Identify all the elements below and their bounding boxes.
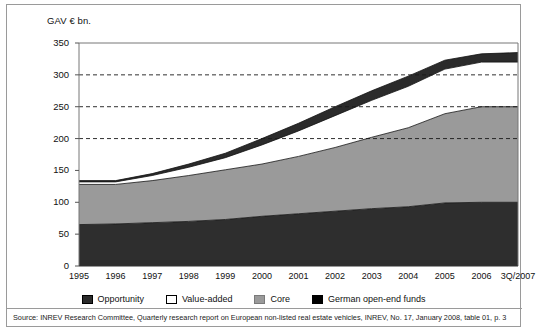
legend-label-opportunity: Opportunity xyxy=(98,294,145,304)
legend-label-german-open-end-funds: German open-end funds xyxy=(328,294,426,304)
legend-label-value-added: Value-added xyxy=(182,294,232,304)
legend-swatch-value-added xyxy=(166,295,177,304)
figure-container: GAV € bn. 050100150200250300350199519961… xyxy=(6,4,521,327)
legend-item-opportunity[interactable]: Opportunity xyxy=(82,294,145,304)
chart-legend: Opportunity Value-added Core German open… xyxy=(7,291,522,307)
y-axis-tick-label: 150 xyxy=(37,164,69,175)
source-note: Source: INREV Research Committee, Quarte… xyxy=(13,313,518,322)
y-axis-tick-label: 100 xyxy=(37,196,69,207)
y-axis-tick-label: 250 xyxy=(37,101,69,112)
legend-label-core: Core xyxy=(270,294,290,304)
y-axis-tick-label: 350 xyxy=(37,37,69,48)
source-divider xyxy=(7,308,522,309)
y-axis-tick-label: 50 xyxy=(37,228,69,239)
stacked-area-chart xyxy=(7,5,522,295)
x-axis-tick-label: 3Q/2007 xyxy=(494,271,540,281)
legend-item-core[interactable]: Core xyxy=(254,294,290,304)
legend-swatch-german-open-end-funds xyxy=(312,295,323,304)
legend-item-german-open-end-funds[interactable]: German open-end funds xyxy=(312,294,426,304)
legend-swatch-opportunity xyxy=(82,295,93,304)
y-axis-tick-label: 300 xyxy=(37,69,69,80)
plot-area: 0501001502002503003501995199619971998199… xyxy=(7,5,522,295)
legend-item-value-added[interactable]: Value-added xyxy=(166,294,232,304)
y-axis-tick-label: 200 xyxy=(37,133,69,144)
y-axis-tick-label: 0 xyxy=(37,260,69,271)
legend-swatch-core xyxy=(254,295,265,304)
